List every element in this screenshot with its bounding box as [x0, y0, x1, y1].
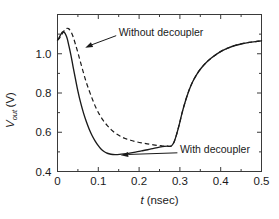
x-tick-label: 0.1: [90, 175, 106, 187]
x-tick-label: 0.4: [213, 175, 230, 187]
y-tick-label: 0.4: [36, 166, 53, 178]
y-tick-label: 1.0: [36, 48, 52, 60]
annotation-label-with-decoupler: With decoupler: [180, 143, 251, 155]
x-tick-label: 0.5: [254, 175, 270, 187]
x-tick-label: 0.3: [172, 175, 188, 187]
y-tick-label: 0.6: [36, 126, 52, 138]
x-tick-label: 0: [54, 175, 60, 187]
figure-container: 00.10.20.30.40.5 0.40.60.81.0 Without de…: [0, 0, 279, 219]
annotation-label-without-decoupler: Without decoupler: [119, 26, 204, 38]
x-axis-title: t(nsec): [140, 194, 178, 206]
voltage-waveform-chart: 00.10.20.30.40.5 0.40.60.81.0 Without de…: [0, 0, 279, 219]
y-tick-label: 0.8: [36, 87, 52, 99]
x-tick-label: 0.2: [131, 175, 147, 187]
